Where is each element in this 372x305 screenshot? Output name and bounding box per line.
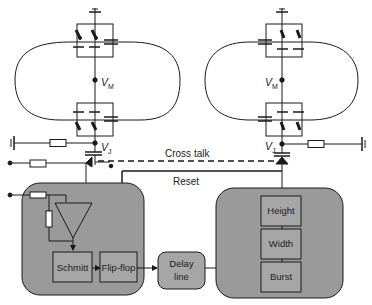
delay-line-label-1: Delay: [169, 258, 194, 269]
width-label: Width: [269, 238, 293, 249]
left-vj-label: VJ: [101, 141, 112, 155]
schmitt-label: Schmitt: [57, 262, 89, 273]
burst-label: Burst: [270, 271, 293, 282]
right-vm-node: [280, 78, 284, 82]
left-top-squid: [73, 8, 118, 57]
right-bottom-squid: [258, 103, 304, 143]
cross-talk-label: Cross talk: [165, 148, 210, 159]
right-vj-label: VJ: [265, 140, 276, 154]
left-vm-node: [93, 78, 97, 82]
delay-line-label-2: line: [174, 271, 189, 282]
circuit-diagram: VM VJ VM VJ Cross talk Reset Schmitt Fli…: [0, 0, 372, 305]
right-top-squid: [258, 8, 304, 57]
flip-flop-label: Flip-flop: [102, 262, 136, 273]
left-bottom-squid: [73, 103, 118, 143]
right-ground-resistor: [282, 137, 365, 151]
left-ground-resistor: [11, 136, 95, 150]
reset-label: Reset: [173, 176, 199, 187]
height-label: Height: [267, 205, 295, 216]
left-vm-label: VM: [101, 76, 114, 90]
right-vm-label: VM: [265, 76, 278, 90]
